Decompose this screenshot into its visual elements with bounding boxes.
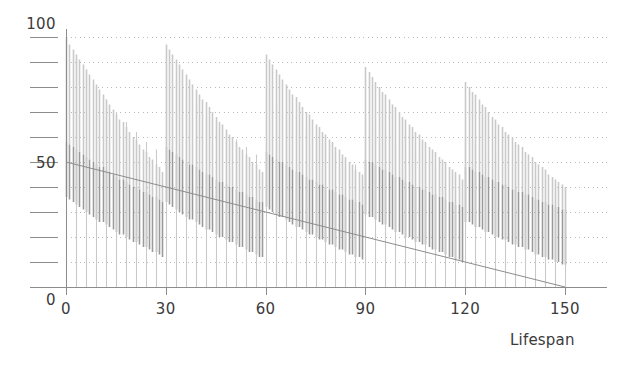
x-axis-ticks [67, 287, 566, 295]
trend-line [66, 162, 565, 287]
y-axis-tick-label: 50 [0, 154, 56, 172]
chart-container: 0501000306090120150Lifespan [0, 0, 621, 365]
x-axis-tick-label: 90 [335, 300, 395, 318]
y-axis-tick-label: 100 [0, 15, 56, 33]
x-axis-tick-label: 120 [435, 300, 495, 318]
bar-series-baseline-spikes [67, 37, 566, 287]
x-axis-tick-label: 60 [236, 300, 296, 318]
x-axis-tick-label: 150 [535, 300, 595, 318]
x-axis-tick-label: 0 [36, 300, 96, 318]
x-axis-label: Lifespan [510, 331, 575, 349]
x-axis-tick-label: 30 [136, 300, 196, 318]
